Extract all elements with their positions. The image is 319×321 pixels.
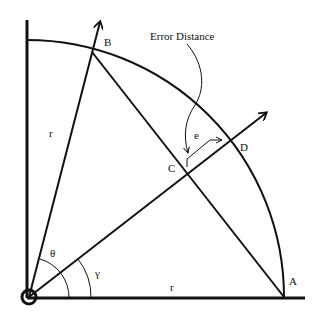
chord-ba: [92, 52, 284, 297]
radius-arc: [27, 40, 284, 297]
angle-gamma-label: γ: [95, 268, 100, 279]
diagram-drawing: [0, 0, 319, 321]
geometry-diagram: Error Distance B C D A e r r θ γ: [0, 0, 319, 321]
angle-theta-arc: [40, 259, 69, 298]
ray-od-arrow: [29, 113, 266, 297]
error-e-label: e: [194, 130, 199, 141]
angle-theta-label: θ: [50, 248, 55, 259]
point-b-label: B: [104, 37, 111, 48]
error-distance-label: Error Distance: [150, 31, 214, 42]
ray-ob-arrow: [29, 22, 100, 297]
point-d-label: D: [240, 142, 248, 153]
point-c-label: C: [168, 163, 175, 174]
point-a-label: A: [289, 276, 297, 287]
radius-horizontal-label: r: [170, 282, 174, 293]
angle-gamma-arc: [78, 259, 91, 298]
radius-vertical-label: r: [49, 128, 53, 139]
error-e-bracket: [187, 140, 222, 167]
